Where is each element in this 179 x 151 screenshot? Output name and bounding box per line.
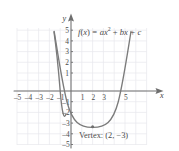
- x-tick-label: 2: [92, 93, 96, 102]
- figure-container: y x –5 –4 –3 –2 –1 1 2 3 5 5 4 3 2 1 –1 …: [0, 0, 179, 151]
- x-tick-label: –3: [35, 93, 44, 102]
- y-tick-label: 5: [65, 26, 69, 35]
- y-tick-label: 3: [65, 47, 69, 56]
- x-tick-label: –2: [45, 93, 54, 102]
- x-tick-label: –4: [24, 93, 33, 102]
- vertex-annotation: Vertex: (2, −3): [79, 131, 128, 140]
- equation-plus-1: +: [113, 27, 118, 37]
- x-tick-label: –5: [13, 93, 22, 102]
- equation-close-paren: ): [87, 27, 90, 37]
- equation-x3: x: [123, 27, 128, 37]
- equation-exponent: 2: [108, 26, 111, 32]
- x-tick-label: 3: [102, 93, 106, 102]
- equation-plus-2: +: [130, 27, 135, 37]
- x-tick-label: 5: [124, 93, 128, 102]
- equation-c: c: [138, 27, 142, 37]
- y-tick-label: –4: [61, 130, 70, 139]
- x-tick-labels: –5 –4 –3 –2 –1 1 2 3 5: [13, 93, 128, 102]
- vertex-dot: [91, 125, 94, 128]
- axes: [14, 18, 159, 148]
- parabola-graph: y x –5 –4 –3 –2 –1 1 2 3 5 5 4 3 2 1 –1 …: [0, 0, 179, 151]
- equation-equals: =: [92, 27, 97, 37]
- y-tick-labels: 5 4 3 2 1 –1 –2 –3 –4 –5: [61, 26, 70, 149]
- equation-label: f(x)=ax2+bx+c: [78, 26, 142, 36]
- y-tick-label: –5: [61, 140, 70, 149]
- y-tick-label: 4: [65, 37, 69, 46]
- x-axis-label: x: [159, 91, 164, 100]
- y-tick-label: 2: [65, 58, 69, 67]
- x-tick-label: 1: [81, 93, 85, 102]
- y-axis-label: y: [62, 14, 67, 23]
- grid-lines: [17, 28, 147, 145]
- y-tick-label: 1: [65, 69, 69, 78]
- y-tick-label: –3: [61, 119, 70, 128]
